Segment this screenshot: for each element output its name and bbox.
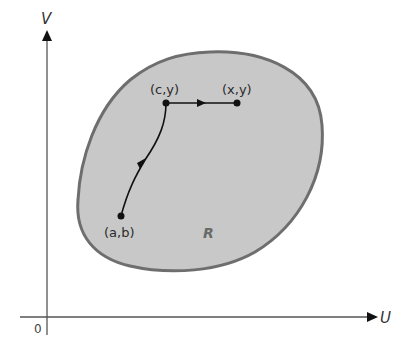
label-a-b: (a,b): [104, 225, 135, 240]
v-axis-label: V: [41, 10, 53, 28]
region-label: R: [203, 225, 214, 241]
origin-label: 0: [34, 322, 42, 336]
label-x-y: (x,y): [222, 82, 252, 97]
point-x-y: [234, 100, 241, 107]
label-c-y: (c,y): [150, 82, 179, 97]
u-axis-arrow-icon: [367, 312, 378, 322]
point-a-b: [118, 213, 125, 220]
u-axis-label: U: [380, 309, 391, 327]
point-c-y: [163, 100, 170, 107]
v-axis-arrow-icon: [42, 30, 52, 41]
diagram-canvas: V U 0 (a,b) (c,y) (x,y) R: [0, 0, 394, 341]
